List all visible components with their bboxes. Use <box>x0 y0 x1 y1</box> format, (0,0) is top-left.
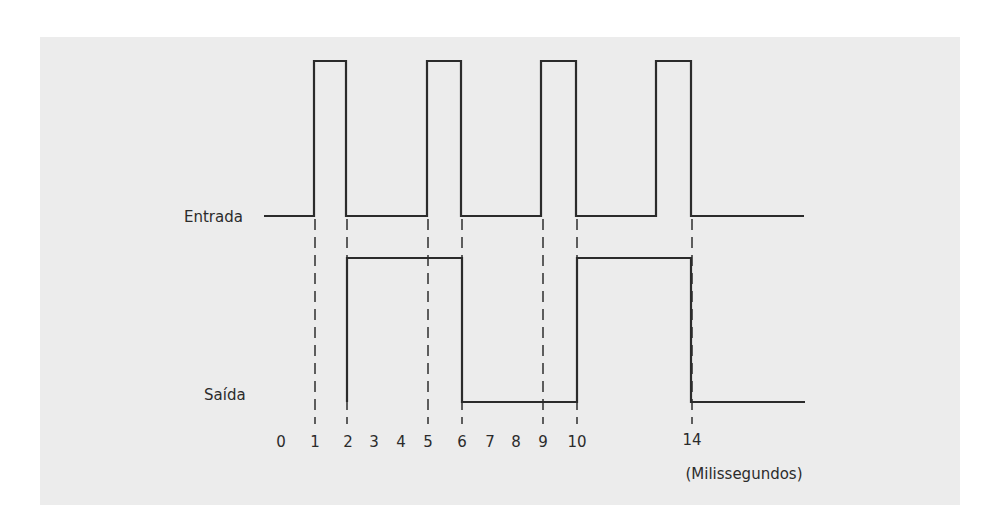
time-tick-6: 6 <box>457 433 467 451</box>
guide-lines <box>315 219 692 424</box>
output-signal-label: Saída <box>204 386 246 404</box>
time-axis-ticks: 01234567891014 <box>276 431 701 451</box>
time-unit-label: (Milissegundos) <box>685 465 802 483</box>
time-tick-14: 14 <box>682 431 701 449</box>
input-signal-label: Entrada <box>184 208 243 226</box>
time-tick-2: 2 <box>343 433 353 451</box>
time-tick-7: 7 <box>485 433 495 451</box>
time-tick-1: 1 <box>310 433 320 451</box>
time-tick-10: 10 <box>567 433 586 451</box>
time-tick-0: 0 <box>276 433 286 451</box>
output-signal-trace <box>347 258 805 402</box>
time-tick-5: 5 <box>423 433 433 451</box>
timing-diagram: Entrada Saída 01234567891014 (Milissegun… <box>0 0 995 523</box>
time-tick-8: 8 <box>511 433 521 451</box>
time-tick-4: 4 <box>396 433 406 451</box>
time-tick-3: 3 <box>369 433 379 451</box>
time-tick-9: 9 <box>538 433 548 451</box>
input-signal-trace <box>264 61 804 216</box>
